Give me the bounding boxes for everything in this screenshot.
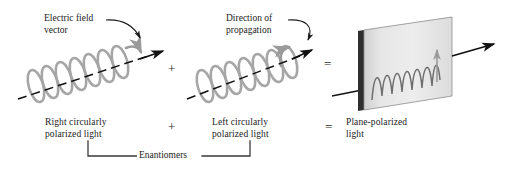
electric-field-vector-label: Electric field vector [44, 13, 93, 36]
bottom-equals-operator: = [325, 120, 332, 133]
helix-left-circular [187, 44, 312, 104]
propagation-arrow-right [140, 51, 163, 59]
plane-face [364, 17, 452, 110]
direction-of-propagation-label: Direction of propagation [226, 13, 272, 36]
plane-polarized-panel [332, 17, 494, 111]
polarized-light-diagram: Electric field vector Direction of propa… [0, 0, 512, 169]
propagation-pointer-arrow [288, 20, 310, 40]
top-plus-operator: + [168, 62, 175, 75]
plane-edge-thickness [358, 30, 364, 111]
incoming-axis-line [332, 90, 362, 96]
electric-field-pointer-arrow [106, 20, 140, 38]
top-equals-operator: = [324, 57, 331, 70]
exit-propagation-arrow [452, 44, 494, 56]
caption-plane-polarized-light: Plane-polarized light [346, 117, 407, 140]
caption-left-circularly-polarized-light: Left circularly polarized light [212, 117, 269, 140]
bottom-plus-operator: + [168, 120, 175, 133]
enantiomers-label: Enantiomers [137, 150, 189, 160]
caption-right-circularly-polarized-light: Right circularly polarized light [45, 117, 107, 140]
helix-right-circular [18, 44, 163, 104]
helix-rotation-arrow-right [126, 47, 141, 52]
